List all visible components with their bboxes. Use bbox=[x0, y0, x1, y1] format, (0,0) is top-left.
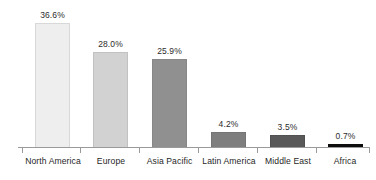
axis-tick bbox=[316, 148, 317, 153]
bar-value-label: 25.9% bbox=[157, 46, 182, 56]
bar-group: 25.9% bbox=[152, 0, 187, 148]
bar-value-label: 0.7% bbox=[336, 131, 356, 141]
bar-value-label: 36.6% bbox=[40, 10, 65, 20]
bar-value-label: 28.0% bbox=[98, 39, 123, 49]
bar-value-label: 3.5% bbox=[278, 122, 298, 132]
category-label: Africa bbox=[313, 156, 376, 166]
bar-group: 0.7% bbox=[328, 0, 363, 148]
bar-value-label: 4.2% bbox=[219, 119, 239, 129]
axis-tick bbox=[139, 148, 140, 153]
bar[interactable] bbox=[211, 132, 246, 148]
axis-tick bbox=[257, 148, 258, 153]
axis-tick bbox=[22, 148, 23, 153]
x-axis-line bbox=[18, 147, 370, 148]
bar-chart: 36.6%28.0%25.9%4.2%3.5%0.7% North Americ… bbox=[0, 0, 376, 180]
bar-group: 28.0% bbox=[93, 0, 128, 148]
bar-group: 3.5% bbox=[270, 0, 305, 148]
bar[interactable] bbox=[152, 59, 187, 148]
bar-group: 36.6% bbox=[35, 0, 70, 148]
bar-group: 4.2% bbox=[211, 0, 246, 148]
bar[interactable] bbox=[93, 52, 128, 148]
bar[interactable] bbox=[35, 23, 70, 148]
axis-tick bbox=[369, 148, 370, 153]
axis-tick bbox=[198, 148, 199, 153]
axis-tick bbox=[80, 148, 81, 153]
plot-area: 36.6%28.0%25.9%4.2%3.5%0.7% bbox=[0, 0, 376, 148]
